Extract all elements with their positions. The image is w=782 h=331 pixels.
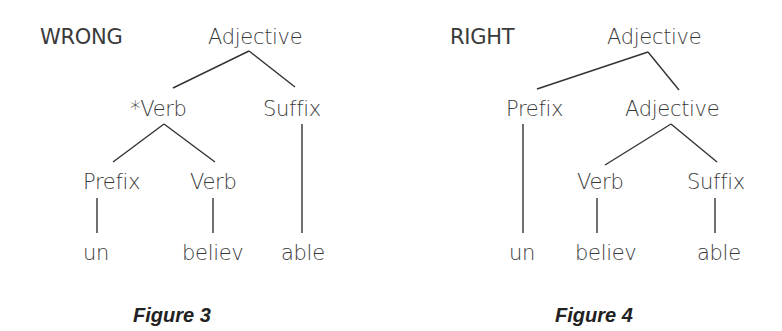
node-prefix: Prefix (83, 170, 140, 194)
edge (164, 124, 215, 162)
edge (605, 124, 671, 165)
node-verb: Verb (190, 170, 236, 194)
wrong-label: WRONG (40, 25, 122, 49)
node-verb: Verb (577, 170, 623, 194)
edge (113, 124, 164, 162)
leaf-able: able (697, 241, 741, 265)
leaf-believ: believ (182, 241, 243, 265)
node-prefix: Prefix (506, 97, 563, 121)
leaf-un: un (83, 241, 109, 265)
morphology-trees: WRONG Adjective *Verb Suffix Prefix Verb… (0, 0, 782, 331)
node-verb-starred: *Verb (130, 97, 187, 121)
figure-3-wrong-tree: WRONG Adjective *Verb Suffix Prefix Verb… (40, 25, 325, 326)
right-label: RIGHT (450, 25, 515, 49)
edge (537, 52, 648, 89)
edge (671, 124, 717, 162)
node-adjective: Adjective (625, 97, 719, 121)
figure-4-caption: Figure 4 (555, 304, 633, 326)
edge (249, 51, 295, 87)
node-root-adjective: Adjective (607, 25, 701, 49)
leaf-un: un (509, 241, 535, 265)
edge (648, 52, 679, 90)
node-root-adjective: Adjective (208, 25, 302, 49)
node-suffix: Suffix (263, 97, 321, 121)
leaf-able: able (281, 241, 325, 265)
node-suffix: Suffix (687, 170, 745, 194)
figure-3-caption: Figure 3 (133, 304, 211, 326)
figure-4-right-tree: RIGHT Adjective Prefix Adjective Verb Su… (450, 25, 745, 326)
leaf-believ: believ (575, 241, 636, 265)
edge (173, 51, 249, 88)
